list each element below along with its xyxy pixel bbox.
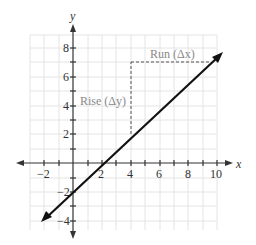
- y-tick-label: −4: [57, 214, 70, 228]
- y-axis-label: y: [69, 9, 76, 23]
- y-axis-down-arrow-icon: [70, 231, 76, 239]
- x-tick-label: 10: [210, 167, 222, 181]
- y-tick-label: 2: [63, 127, 69, 141]
- x-tick-label: 8: [185, 167, 191, 181]
- coordinate-plane: y x −2 2 4 6 8 10 8 6 4 2 −2 −4 Rise (Δy…: [0, 0, 256, 245]
- x-tick-label: 4: [127, 167, 133, 181]
- x-axis-right-arrow-icon: [225, 160, 233, 166]
- run-label: Run (Δx): [150, 47, 195, 61]
- x-axis-left-arrow-icon: [16, 160, 24, 166]
- y-tick-label: 6: [63, 70, 69, 84]
- grid: [30, 35, 217, 230]
- y-tick-label: 8: [63, 41, 69, 55]
- rise-run-guides: [131, 62, 210, 134]
- y-tick-label: 4: [63, 99, 69, 113]
- y-axis-up-arrow-icon: [70, 24, 76, 32]
- x-tick-label: −2: [37, 167, 50, 181]
- rise-label: Rise (Δy): [80, 94, 126, 108]
- plotted-line: [46, 57, 218, 218]
- x-axis-label: x: [235, 157, 242, 171]
- x-axis: [22, 160, 228, 166]
- x-tick-label: 6: [156, 167, 162, 181]
- y-axis: [70, 30, 76, 234]
